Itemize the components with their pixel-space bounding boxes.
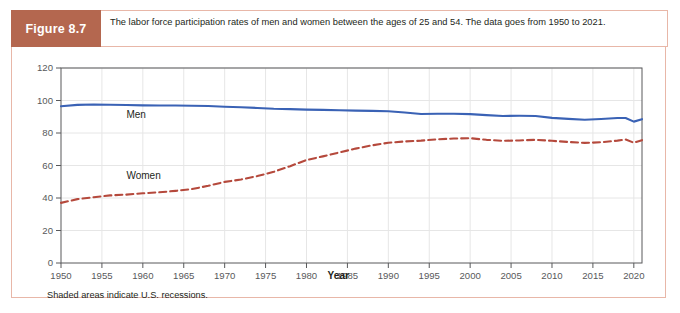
x-axis-title: Year	[12, 270, 665, 281]
series-label-women: Women	[126, 170, 160, 181]
y-tick-label: 40	[42, 192, 53, 203]
y-tick-label: 80	[42, 127, 53, 138]
chart-footnote: Shaded areas indicate U.S. recessions.	[47, 290, 208, 300]
figure-caption: The labor force participation rates of m…	[101, 10, 668, 47]
chart-area: 0204060801001201950195519601965197019751…	[12, 48, 665, 297]
figure-header: Figure 8.7 The labor force participation…	[11, 10, 668, 47]
figure-card: Figure 8.7 The labor force participation…	[11, 10, 666, 298]
series-line-men	[61, 105, 642, 122]
series-label-men: Men	[126, 109, 145, 120]
y-tick-label: 100	[37, 95, 53, 106]
y-tick-label: 60	[42, 160, 53, 171]
y-tick-label: 20	[42, 225, 53, 236]
y-tick-label: 120	[37, 62, 53, 73]
figure-tag: Figure 8.7	[11, 10, 101, 47]
y-tick-label: 0	[48, 257, 53, 268]
line-chart: 0204060801001201950195519601965197019751…	[12, 48, 665, 297]
